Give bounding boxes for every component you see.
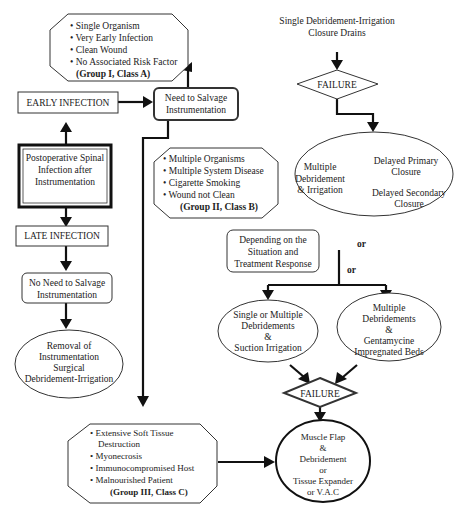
gentamycine-ellipse: Multiple Debridements & Gentamycine Impr…: [337, 293, 441, 361]
svg-text:Suction Irrigation: Suction Irrigation: [234, 343, 302, 353]
group-b-item: • Multiple Organisms: [163, 154, 245, 164]
svg-text:Removal of: Removal of: [47, 341, 92, 351]
no-need-salvage-box: No Need to Salvage Instrumentation: [22, 273, 112, 303]
arrow-gentamycine-to-failure: [343, 365, 357, 377]
group-c-item: • Myonecrosis: [90, 451, 142, 461]
svg-text:Situation and: Situation and: [248, 247, 299, 257]
svg-text:Treatment Response: Treatment Response: [234, 259, 312, 269]
svg-text:Delayed Primary: Delayed Primary: [374, 156, 439, 166]
svg-text:No Need to Salvage: No Need to Salvage: [29, 278, 105, 288]
group-a-item: • Single Organism: [70, 21, 140, 31]
depending-box: Depending on the Situation and Treatment…: [227, 230, 319, 272]
arrowhead: [60, 261, 72, 271]
svg-text:Gentamycine: Gentamycine: [364, 336, 415, 346]
svg-text:Closure Drains: Closure Drains: [308, 28, 366, 38]
arrowhead: [367, 122, 379, 132]
svg-text:Multiple: Multiple: [304, 162, 337, 172]
svg-text:FAILURE: FAILURE: [300, 389, 340, 399]
svg-text:Closure: Closure: [394, 199, 424, 209]
group-a-box: • Single Organism • Very Early Infection…: [50, 14, 188, 81]
svg-text:or V.A.C: or V.A.C: [307, 487, 339, 497]
failure-diamond-1: FAILURE: [297, 70, 378, 99]
arrowhead: [264, 456, 275, 468]
group-b-box: • Multiple Organisms • Multiple System D…: [154, 148, 278, 218]
svg-text:Delayed Secondary: Delayed Secondary: [372, 188, 446, 198]
group-a-item: • Clean Wound: [70, 45, 128, 55]
svg-text:FAILURE: FAILURE: [317, 80, 357, 90]
svg-text:Debridement: Debridement: [300, 454, 347, 464]
group-c-item: • Extensive Soft Tissue: [90, 428, 173, 438]
svg-text:Single Debridement-Irrigation: Single Debridement-Irrigation: [279, 16, 395, 26]
arrowhead: [262, 290, 274, 300]
group-a-item: • Very Early Infection: [70, 33, 153, 43]
svg-text:&: &: [319, 443, 326, 453]
svg-text:Instrumentation: Instrumentation: [39, 352, 99, 362]
svg-text:Instrumentation: Instrumentation: [166, 105, 226, 115]
group-c-item: • Immunocompromised Host: [90, 463, 195, 473]
svg-text:LATE INFECTION: LATE INFECTION: [24, 231, 100, 241]
svg-text:Debridements: Debridements: [241, 321, 295, 331]
group-a-label: (Group I, Class A): [76, 69, 150, 80]
svg-text:&: &: [385, 325, 393, 335]
svg-text:Depending on the: Depending on the: [239, 235, 307, 245]
svg-text:Muscle Flap: Muscle Flap: [301, 432, 346, 442]
svg-text:Single or Multiple: Single or Multiple: [233, 310, 303, 320]
flowchart: • Single Organism • Very Early Infection…: [0, 0, 466, 514]
need-salvage-box: Need to Salvage Instrumentation: [154, 88, 238, 120]
single-debridement-text: Single Debridement-Irrigation Closure Dr…: [279, 16, 395, 38]
group-b-item: • Wound not Clean: [163, 190, 235, 200]
arrow-failure-to-multiple: [337, 99, 373, 123]
arrowhead: [137, 396, 149, 407]
svg-text:Instrumentation: Instrumentation: [35, 177, 95, 187]
arrowhead: [331, 60, 343, 70]
early-infection-label: EARLY INFECTION: [27, 98, 110, 108]
svg-text:& Irrigation: & Irrigation: [297, 185, 343, 195]
arrow-suction-to-failure: [290, 365, 304, 377]
svg-text:Need to Salvage: Need to Salvage: [165, 93, 227, 103]
svg-text:Debridement-Irrigation: Debridement-Irrigation: [25, 374, 114, 384]
group-b-item: • Cigarette Smoking: [163, 178, 240, 188]
early-infection-box: EARLY INFECTION: [18, 92, 118, 113]
svg-text:Debridements: Debridements: [362, 314, 416, 324]
group-c-label: (Group III, Class C): [110, 487, 188, 497]
group-c-item-continued: Destruction: [98, 439, 140, 449]
multiple-debridement-ellipse: Multiple Debridement & Irrigation Delaye…: [295, 132, 453, 216]
svg-text:Closure: Closure: [391, 167, 421, 177]
group-b-label: (Group II, Class B): [180, 202, 258, 213]
group-a-item: • No Associated Risk Factor: [70, 57, 178, 67]
removal-ellipse: Removal of Instrumentation Surgical Debr…: [15, 330, 123, 398]
failure-diamond-2: FAILURE: [284, 378, 356, 407]
svg-text:or: or: [319, 465, 327, 475]
or-label-1: or: [357, 239, 367, 249]
postoperative-infection-box: Postoperative Spinal Infection after Ins…: [19, 145, 111, 207]
group-c-item: • Malnourished Patient: [90, 475, 173, 485]
group-c-box: • Extensive Soft Tissue Destruction • My…: [68, 424, 217, 503]
svg-text:Multiple: Multiple: [373, 303, 406, 313]
svg-text:&: &: [264, 332, 272, 342]
svg-text:Tissue Expander: Tissue Expander: [293, 476, 353, 486]
muscle-flap-ellipse: Muscle Flap & Debridement or Tissue Expa…: [276, 420, 370, 502]
suction-irrigation-ellipse: Single or Multiple Debridements & Suctio…: [218, 300, 318, 362]
svg-text:Debridement: Debridement: [295, 174, 345, 184]
svg-text:Instrumentation: Instrumentation: [37, 290, 97, 300]
svg-text:Surgical: Surgical: [53, 363, 85, 373]
svg-text:Postoperative Spinal: Postoperative Spinal: [26, 153, 105, 163]
arrowhead: [143, 96, 153, 108]
late-infection-box: LATE INFECTION: [16, 226, 108, 246]
arrowhead: [60, 122, 72, 132]
or-label-2: or: [347, 265, 357, 275]
arrowhead: [60, 319, 72, 329]
group-b-item: • Multiple System Disease: [163, 166, 264, 176]
svg-text:Impregnated Beds: Impregnated Beds: [354, 347, 424, 357]
svg-text:Infection after: Infection after: [38, 165, 93, 175]
